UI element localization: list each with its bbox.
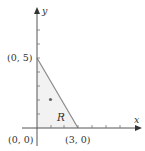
coordinate-diagram: y x (0, 5) (0, 0) (3, 0) R xyxy=(0,0,145,151)
point-label-0-0: (0, 0) xyxy=(8,134,34,145)
x-axis-label: x xyxy=(134,114,140,125)
y-axis-arrow-icon xyxy=(34,7,40,14)
region-label: R xyxy=(56,111,65,123)
point-label-0-5: (0, 5) xyxy=(7,52,33,63)
y-axis-label: y xyxy=(41,5,48,16)
point-label-3-0: (3, 0) xyxy=(65,134,91,145)
x-axis-arrow-icon xyxy=(135,125,142,131)
sample-point-marker xyxy=(49,98,52,101)
